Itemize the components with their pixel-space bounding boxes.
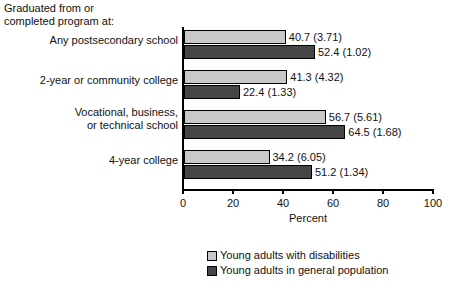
- bar-row: 51.2 (1.34): [184, 165, 452, 179]
- bar-row: 56.7 (5.61): [184, 110, 452, 124]
- plot-area: 0 20 40 60 80 100 40.7 (3.71) 52.4 (1.02…: [182, 27, 432, 189]
- x-axis-tick-label-100: 100: [418, 197, 448, 209]
- bar-row: 34.2 (6.05): [184, 150, 452, 164]
- bar-value-disabilities-2-year-or-community-college: 41.3 (4.32): [287, 70, 343, 84]
- bar-disabilities-any-postsecondary-school[interactable]: [184, 30, 286, 44]
- bar-row: 41.3 (4.32): [184, 70, 452, 84]
- bar-row: 40.7 (3.71): [184, 30, 452, 44]
- bar-value-disabilities-vocational-business-or-technical-school: 56.7 (5.61): [326, 110, 382, 124]
- legend-label-general-population: Young adults in general population: [220, 264, 388, 277]
- x-axis-tick-80: [382, 189, 384, 194]
- x-axis-tick-100: [432, 189, 434, 194]
- chart-title: Graduated from or completed program at:: [4, 2, 114, 28]
- x-axis-tick-60: [332, 189, 334, 194]
- bar-disabilities-4-year-college[interactable]: [184, 150, 270, 164]
- bar-value-disabilities-4-year-college: 34.2 (6.05): [270, 150, 326, 164]
- bar-value-general-2-year-or-community-college: 22.4 (1.33): [240, 85, 296, 99]
- bar-group-vocational-business-or-technical-school: 56.7 (5.61) 64.5 (1.68): [184, 110, 452, 140]
- x-axis-tick-20: [232, 189, 234, 194]
- x-axis-tick-40: [282, 189, 284, 194]
- x-axis-tick-label-80: 80: [368, 197, 398, 209]
- bar-row: 52.4 (1.02): [184, 45, 452, 59]
- bar-group-4-year-college: 34.2 (6.05) 51.2 (1.34): [184, 150, 452, 180]
- category-label-2-year-or-community-college: 2-year or community college: [40, 74, 178, 87]
- bar-value-general-vocational-business-or-technical-school: 64.5 (1.68): [345, 125, 401, 139]
- x-axis-tick-label-20: 20: [218, 197, 248, 209]
- category-label-vocational-business-or-technical-school: Vocational, business, or technical schoo…: [75, 106, 178, 132]
- x-axis-title: Percent: [182, 212, 434, 224]
- x-axis-tick-label-60: 60: [318, 197, 348, 209]
- x-axis-line: [182, 189, 434, 191]
- legend-item-general-population[interactable]: Young adults in general population: [207, 263, 388, 278]
- legend-swatch-icon-general-population: [207, 266, 217, 276]
- category-label-any-postsecondary-school: Any postsecondary school: [50, 34, 178, 47]
- bar-general-any-postsecondary-school[interactable]: [184, 45, 315, 59]
- bar-value-disabilities-any-postsecondary-school: 40.7 (3.71): [286, 30, 342, 44]
- legend-item-disabilities[interactable]: Young adults with disabilities: [207, 248, 388, 263]
- legend-swatch-icon-disabilities: [207, 251, 217, 261]
- bar-disabilities-vocational-business-or-technical-school[interactable]: [184, 110, 326, 124]
- bar-general-4-year-college[interactable]: [184, 165, 312, 179]
- x-axis-tick-0: [182, 189, 184, 194]
- bar-group-2-year-or-community-college: 41.3 (4.32) 22.4 (1.33): [184, 70, 452, 100]
- bar-group-any-postsecondary-school: 40.7 (3.71) 52.4 (1.02): [184, 30, 452, 60]
- bar-general-vocational-business-or-technical-school[interactable]: [184, 125, 345, 139]
- bar-row: 64.5 (1.68): [184, 125, 452, 139]
- x-axis-tick-label-40: 40: [268, 197, 298, 209]
- chart-legend: Young adults with disabilities Young adu…: [207, 248, 388, 278]
- bar-disabilities-2-year-or-community-college[interactable]: [184, 70, 287, 84]
- x-axis-tick-label-0: 0: [168, 197, 198, 209]
- bar-value-general-any-postsecondary-school: 52.4 (1.02): [315, 45, 371, 59]
- category-label-4-year-college: 4-year college: [109, 154, 178, 167]
- bar-row: 22.4 (1.33): [184, 85, 452, 99]
- bar-general-2-year-or-community-college[interactable]: [184, 85, 240, 99]
- bar-value-general-4-year-college: 51.2 (1.34): [312, 165, 368, 179]
- legend-label-disabilities: Young adults with disabilities: [220, 249, 360, 262]
